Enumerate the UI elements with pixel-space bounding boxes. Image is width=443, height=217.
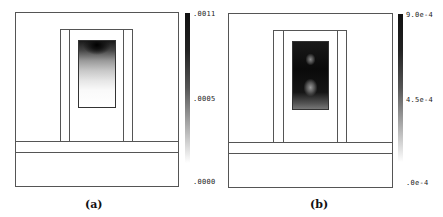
pillar-top <box>273 30 347 31</box>
heatmap-region <box>292 41 329 110</box>
layer-line-1 <box>15 141 179 142</box>
heatmap-region <box>78 40 116 108</box>
colorbar-min-label: .0e-4 <box>406 179 429 187</box>
layer-line-2 <box>15 152 179 153</box>
layer-line-1 <box>228 142 393 143</box>
pillar-left-outer <box>273 30 274 143</box>
panel-b: 9.0e-4 4.5e-4 .0e-4 (b) <box>213 0 434 217</box>
pillar-top <box>60 29 133 30</box>
colorbar <box>398 14 403 162</box>
pillar-right-inner <box>337 30 338 143</box>
pillar-right-outer <box>132 29 133 142</box>
panel-caption: (b) <box>310 198 328 211</box>
pillar-right-outer <box>346 30 347 143</box>
layer-line-2 <box>228 153 393 154</box>
pillar-left-inner <box>69 29 70 142</box>
pillar-left-outer <box>60 29 61 142</box>
panel-caption: (a) <box>85 198 103 211</box>
panel-a: .0011 .0005 .0000 (a) <box>0 0 221 217</box>
pillar-left-inner <box>283 30 284 143</box>
colorbar-max-label: 9.0e-4 <box>406 11 433 19</box>
colorbar-mid-label: 4.5e-4 <box>406 96 433 104</box>
colorbar <box>185 13 190 163</box>
pillar-right-inner <box>123 29 124 142</box>
